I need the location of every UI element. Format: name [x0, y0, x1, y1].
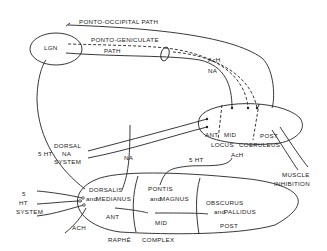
lc-mid-label: MID — [224, 131, 236, 138]
locus-coeruleus-node — [198, 104, 302, 145]
medianus-label: MEDIANUS — [96, 195, 131, 202]
lc-ach-label: AcH — [231, 151, 244, 158]
lc-ant-label: ANT — [205, 131, 218, 138]
svg-text:HT: HT — [19, 199, 28, 206]
obscurus-label: OBSCURUS — [206, 199, 243, 206]
five-ht-mid-label: 5 HT — [189, 156, 204, 163]
five-ht-lgn-path — [37, 60, 85, 189]
dorsal-na-label: DORSAL — [54, 142, 82, 149]
ponto-occipital-label: PONTO-OCCIPITAL PATH — [79, 18, 158, 25]
dorsalis-label: DORSALIS — [89, 186, 123, 193]
raphe-ant-label: ANT — [106, 213, 119, 220]
lc-label-locus: LOCUS — [211, 141, 234, 148]
na-mid-label: NA — [124, 154, 134, 161]
raphe-post-label: POST — [220, 222, 238, 229]
ach-top-label: AcH — [208, 56, 221, 63]
ponto-geniculate-path-label: PATH — [104, 47, 121, 54]
raphe-label: RAPHÉ — [108, 236, 131, 243]
pathway-tube-cross-section — [159, 46, 170, 62]
lgn-label: LGN — [44, 44, 58, 51]
na-top-label: NA — [208, 67, 218, 74]
raphe-mid-label: MID — [155, 219, 167, 226]
five-ht-left-label: 5 HT — [38, 150, 53, 157]
muscle-inhibition-label: MUSCLE — [282, 171, 310, 178]
ht-system-label: 5 — [22, 190, 26, 197]
svg-text:SYSTEM: SYSTEM — [16, 208, 43, 215]
dorsal-na-path-1 — [88, 119, 207, 151]
complex-label: COMPLEX — [142, 236, 174, 243]
magnus-label: MAGNUS — [160, 195, 189, 202]
raphe-complex-node — [77, 173, 298, 234]
brainstem-pathway-diagram: LGN PONTO-OCCIPITAL PATH PONTO-GENICULAT… — [0, 0, 327, 251]
svg-text:NA: NA — [62, 150, 72, 157]
ponto-geniculate-label: PONTO-GENICULATE — [91, 36, 159, 43]
pontis-label: PONTIS — [148, 185, 173, 192]
lc-label-coeruleus: COERULEUS — [239, 141, 280, 148]
pallidus-label: PALLIDUS — [224, 208, 256, 215]
svg-text:INHIBITION: INHIBITION — [274, 180, 310, 187]
ach-bottom-label: ACH — [72, 224, 86, 231]
